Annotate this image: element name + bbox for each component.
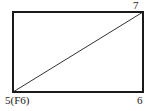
diagonal-line [13,12,143,92]
geometry-figure: 7 5(F6) 6 [0,0,155,111]
vertex-label-bottom-right: 6 [137,94,143,106]
vertex-label-bottom-left: 5(F6) [5,94,29,106]
vertex-label-top-right: 7 [133,0,139,11]
